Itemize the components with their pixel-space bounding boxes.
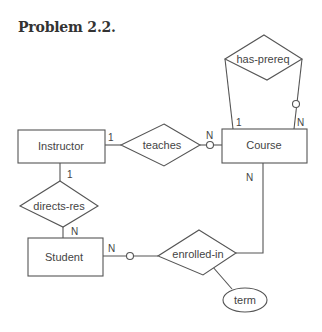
cardinality-instructor-directs: 1 <box>67 169 73 180</box>
optional-circle-teaches <box>207 142 214 149</box>
optional-circle-enrolled <box>127 253 134 260</box>
term-label: term <box>234 294 256 306</box>
cardinality-prereq-left: 1 <box>236 117 242 128</box>
relationship-has-prereq[interactable]: has-prereq <box>225 35 302 80</box>
instructor-label: Instructor <box>38 140 84 152</box>
attribute-term[interactable]: term <box>223 288 267 312</box>
relationship-directs-res[interactable]: directs-res <box>20 181 98 227</box>
er-diagram: has-prereq teaches directs-res enrolled-… <box>0 0 322 332</box>
cardinality-prereq-right: N <box>297 117 304 128</box>
cardinality-course-enrolled: N <box>246 172 253 183</box>
cardinality-instructor-teaches: 1 <box>108 132 114 143</box>
cardinality-teaches-course: N <box>206 130 213 141</box>
cardinality-directs-student: N <box>71 226 78 237</box>
entity-instructor[interactable]: Instructor <box>18 130 105 163</box>
course-label: Course <box>246 139 281 151</box>
student-label: Student <box>45 251 83 263</box>
entity-student[interactable]: Student <box>28 238 103 276</box>
optional-circle-prereq <box>293 101 300 108</box>
cardinality-student-enrolled: N <box>108 243 115 254</box>
relationship-enrolled-in[interactable]: enrolled-in <box>158 230 236 275</box>
edge-enrolled-term <box>212 266 232 289</box>
entity-course[interactable]: Course <box>222 129 307 163</box>
relationship-teaches[interactable]: teaches <box>121 124 200 166</box>
directs-res-label: directs-res <box>33 200 85 212</box>
teaches-label: teaches <box>143 139 182 151</box>
has-prereq-label: has-prereq <box>236 53 289 65</box>
edge-prereq-left <box>225 59 233 129</box>
enrolled-in-label: enrolled-in <box>172 248 223 260</box>
